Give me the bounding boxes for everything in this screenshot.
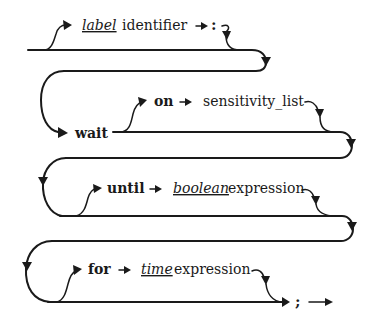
arrow-icon bbox=[73, 265, 82, 275]
boolean-term: boolean bbox=[173, 180, 229, 196]
on-branch-down bbox=[305, 101, 318, 110]
expression-term: expression bbox=[228, 180, 304, 196]
for-row: for time expression ; bbox=[22, 241, 333, 311]
exit-arrow-icon bbox=[325, 298, 333, 306]
arrow-icon bbox=[222, 31, 231, 40]
arrow-icon bbox=[58, 127, 68, 138]
arrow-icon bbox=[185, 98, 192, 106]
expression-term: expression bbox=[174, 261, 250, 277]
colon-symbol: : bbox=[211, 16, 217, 34]
arrow-icon bbox=[346, 139, 356, 148]
turnaround-right-2 bbox=[66, 132, 352, 158]
label-branch-down bbox=[226, 36, 240, 50]
on-keyword: on bbox=[154, 93, 174, 109]
arrow-icon bbox=[38, 177, 48, 186]
arrow-icon bbox=[347, 222, 357, 231]
turnaround-right-3 bbox=[52, 216, 353, 241]
label-term: label bbox=[82, 17, 117, 33]
identifier-term: identifier bbox=[122, 17, 187, 33]
for-keyword: for bbox=[88, 261, 111, 277]
turnaround-left-3 bbox=[26, 241, 52, 302]
arrow-icon bbox=[63, 20, 72, 30]
turnaround-right-1 bbox=[64, 50, 266, 71]
for-branch-up bbox=[57, 271, 76, 302]
label-row: label identifier : bbox=[28, 16, 271, 71]
until-branch-down bbox=[316, 204, 336, 216]
until-row: until boolean expression bbox=[38, 158, 357, 241]
arrow-icon bbox=[93, 184, 102, 193]
on-branch-up bbox=[120, 102, 142, 132]
on-branch-down bbox=[320, 117, 334, 132]
arrow-icon bbox=[138, 97, 147, 107]
wait-row: wait on sensitivity_list bbox=[41, 71, 356, 158]
arrow-icon bbox=[124, 266, 131, 274]
sensitivity-list-term: sensitivity_list bbox=[203, 93, 304, 110]
label-branch-up bbox=[44, 25, 66, 50]
time-term: time bbox=[141, 261, 173, 277]
arrow-icon bbox=[155, 185, 162, 193]
until-keyword: until bbox=[107, 180, 144, 196]
arrow-icon bbox=[261, 57, 271, 66]
wait-keyword: wait bbox=[74, 125, 108, 141]
turnaround-left-2 bbox=[43, 158, 66, 216]
for-branch-down bbox=[266, 284, 283, 302]
arrow-icon bbox=[22, 262, 32, 271]
arrow-icon bbox=[201, 22, 208, 30]
until-branch-up bbox=[76, 189, 96, 216]
wait-statement-syntax-diagram: label identifier : wait on sensitivity_l… bbox=[0, 0, 374, 326]
semicolon-symbol: ; bbox=[295, 293, 301, 311]
turnaround-left-1 bbox=[41, 71, 64, 132]
